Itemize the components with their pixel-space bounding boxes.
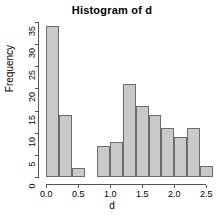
histogram-bar [136, 106, 149, 177]
y-axis-label: Frequency [4, 29, 15, 109]
histogram-bar [149, 115, 162, 177]
x-axis-tick-label: 0.0 [32, 189, 60, 199]
histogram-bar [110, 142, 123, 177]
y-axis-tick-label: 5 [27, 154, 37, 174]
y-axis-tick-label: 30 [27, 43, 37, 63]
x-axis-tick-label: 2.0 [160, 189, 188, 199]
x-axis-line [46, 184, 206, 185]
x-axis-tick [110, 185, 111, 188]
histogram-bar [59, 115, 72, 177]
x-axis-tick-label: 1.0 [96, 189, 124, 199]
y-axis-line [38, 22, 39, 178]
x-axis-tick [142, 185, 143, 188]
x-axis-tick [46, 185, 47, 188]
x-axis-tick [174, 185, 175, 188]
x-axis-tick [206, 185, 207, 188]
histogram-bar [174, 137, 187, 177]
histogram-bar [161, 128, 174, 177]
histogram-bar [200, 166, 213, 177]
histogram-bar [97, 146, 110, 177]
histogram-bar [187, 128, 200, 177]
y-axis-tick-label: 35 [27, 21, 37, 41]
x-axis-tick-label: 1.5 [128, 189, 156, 199]
histogram-bar [46, 26, 59, 177]
y-axis-tick-label: 25 [27, 65, 37, 85]
histogram-plot: Histogram of d Frequency d 0510152025303… [0, 0, 224, 218]
y-axis-tick-label: 10 [27, 132, 37, 152]
x-axis-tick [78, 185, 79, 188]
page-title: Histogram of d [0, 4, 224, 16]
x-axis-tick-label: 0.5 [64, 189, 92, 199]
x-axis-label: d [0, 200, 224, 211]
histogram-bar [72, 168, 85, 177]
y-axis-tick-label: 15 [27, 110, 37, 130]
histogram-bar [123, 84, 136, 177]
x-axis-tick-label: 2.5 [192, 189, 220, 199]
y-axis-tick-label: 20 [27, 87, 37, 107]
